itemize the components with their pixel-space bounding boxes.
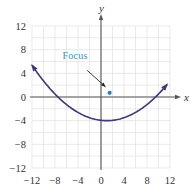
x-tick-label: −12	[24, 175, 40, 186]
y-axis-label: y	[98, 2, 104, 14]
y-tick-label: 12	[16, 21, 27, 32]
y-tick-label: 8	[21, 44, 26, 55]
x-axis-arrow-icon	[175, 95, 181, 99]
x-tick-label: −4	[72, 175, 84, 186]
tick-labels: −12−8−40481212840−4−8−12	[10, 21, 176, 187]
focus-label: Focus	[62, 50, 87, 61]
focus-annotation: Focus	[62, 50, 105, 87]
x-tick-label: 12	[165, 175, 176, 186]
x-tick-label: −8	[49, 175, 60, 186]
x-tick-label: 8	[144, 175, 149, 186]
focus-point	[108, 91, 112, 95]
x-tick-label: 4	[121, 175, 127, 186]
y-tick-label: 4	[21, 68, 27, 79]
y-tick-label: 0	[21, 92, 26, 103]
x-axis-label: x	[183, 91, 189, 103]
y-axis-arrow-icon	[99, 14, 103, 20]
y-tick-label: −4	[15, 115, 27, 126]
parabola-chart: −12−8−40481212840−4−8−12 Focus x y	[0, 0, 192, 196]
y-tick-label: −8	[15, 139, 26, 150]
curve-arrowheads	[31, 64, 168, 91]
x-tick-label: 0	[98, 175, 103, 186]
y-tick-label: −12	[10, 163, 26, 174]
